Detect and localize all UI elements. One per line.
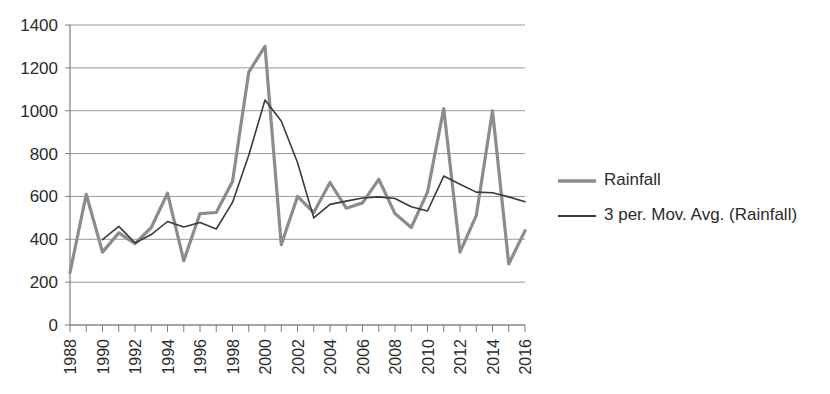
- chart-canvas: 0200400600800100012001400 19881990199219…: [0, 0, 830, 394]
- x-tick-label: 2006: [355, 339, 372, 375]
- x-tick-label: 1998: [225, 339, 242, 375]
- x-tick-label: 1990: [95, 339, 112, 375]
- x-tick-label: 2002: [290, 339, 307, 375]
- y-tick-label: 600: [30, 187, 58, 206]
- series-line-rainfall: [70, 46, 525, 272]
- x-tick-label: 1992: [127, 339, 144, 375]
- y-tick-labels-group: 0200400600800100012001400: [20, 16, 58, 335]
- x-tick-label: 2010: [420, 339, 437, 375]
- legend-label-2: 3 per. Mov. Avg. (Rainfall): [604, 205, 797, 224]
- x-axis-line-group: [70, 325, 525, 332]
- y-tick-label: 800: [30, 145, 58, 164]
- x-tick-label: 2016: [517, 339, 534, 375]
- x-tick-label: 2014: [485, 339, 502, 375]
- x-tick-label: 2000: [257, 339, 274, 375]
- x-tick-label: 1996: [192, 339, 209, 375]
- x-tick-label: 1994: [160, 339, 177, 375]
- legend-group: Rainfall3 per. Mov. Avg. (Rainfall): [558, 170, 797, 224]
- series-line-3-per-mov-avg-rainfall: [103, 100, 526, 243]
- x-tick-label: 2012: [452, 339, 469, 375]
- x-tick-labels-group: 1988199019921994199619982000200220042006…: [62, 339, 534, 375]
- gridlines-group: [65, 25, 525, 325]
- x-tick-label: 2008: [387, 339, 404, 375]
- data-series-group: [70, 46, 525, 272]
- x-tick-label: 2004: [322, 339, 339, 375]
- rainfall-line-chart: 0200400600800100012001400 19881990199219…: [0, 0, 830, 394]
- y-tick-label: 1200: [20, 59, 58, 78]
- y-tick-label: 0: [49, 316, 58, 335]
- y-tick-label: 400: [30, 230, 58, 249]
- legend-label-1: Rainfall: [604, 170, 661, 189]
- y-tick-label: 1000: [20, 102, 58, 121]
- x-tick-label: 1988: [62, 339, 79, 375]
- y-tick-label: 200: [30, 273, 58, 292]
- y-tick-label: 1400: [20, 16, 58, 35]
